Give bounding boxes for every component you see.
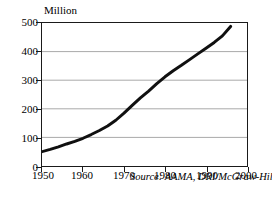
x-tick-label-1960: 1960 — [71, 169, 93, 181]
chart-container: Million 500 400 300 200 100 0 Source: AA… — [0, 0, 272, 198]
x-tick-label-1980: 1980 — [154, 169, 176, 181]
x-tick-label-1990: 1990 — [196, 169, 218, 181]
x-tick-label-1950: 1950 — [32, 169, 54, 181]
x-axis-tick-label-group: 1950 1960 1970 1980 1990 2000 — [0, 169, 272, 189]
x-tick-label-1970: 1970 — [113, 169, 135, 181]
x-tick-label-2000: 2000 — [235, 169, 257, 181]
